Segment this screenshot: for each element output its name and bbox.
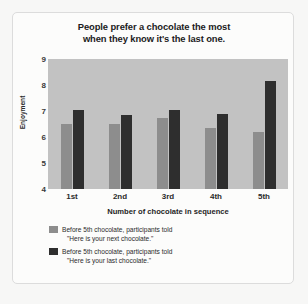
bar: [253, 132, 264, 189]
bar: [205, 128, 216, 189]
legend-label-line-1: Before 5th chocolate, participants told: [62, 247, 172, 256]
legend-swatch: [49, 248, 58, 255]
y-axis-ticks: 456789: [27, 59, 46, 189]
legend-label-line-2: "Here is your last chocolate.": [62, 256, 172, 265]
plot-area: [48, 59, 288, 189]
x-axis-tick: 2nd: [98, 192, 141, 201]
y-axis-tick: 9: [27, 55, 46, 64]
y-axis-tick: 4: [27, 185, 46, 194]
bar: [61, 124, 72, 189]
bar-groups: [48, 59, 288, 189]
bar: [109, 124, 120, 189]
chart-title-line-1: People prefer a chocolate the most: [13, 21, 295, 33]
legend-label-line-2: "Here is your next chocolate.": [62, 234, 172, 243]
legend-label-line-1: Before 5th chocolate, participants told: [62, 225, 172, 234]
legend-label: Before 5th chocolate, participants told"…: [62, 225, 172, 243]
x-axis-tick: 5th: [242, 192, 285, 201]
chart-legend: Before 5th chocolate, participants told"…: [49, 225, 279, 269]
chart-title: People prefer a chocolate the most when …: [13, 21, 295, 45]
bar: [217, 114, 228, 189]
legend-item: Before 5th chocolate, participants told"…: [49, 225, 279, 243]
chart-card: People prefer a chocolate the most when …: [12, 12, 294, 284]
x-axis-tick: 1st: [50, 192, 93, 201]
bar-group: [98, 59, 141, 189]
x-axis-tick: 3rd: [146, 192, 189, 201]
chart-title-line-2: when they know it's the last one.: [13, 33, 295, 45]
bar: [265, 81, 276, 189]
bar-group: [194, 59, 237, 189]
y-axis-tick: 8: [27, 81, 46, 90]
legend-label: Before 5th chocolate, participants told"…: [62, 247, 172, 265]
bar: [73, 110, 84, 189]
x-axis-tick: 4th: [194, 192, 237, 201]
bar-group: [50, 59, 93, 189]
bar-group: [146, 59, 189, 189]
legend-swatch: [49, 226, 58, 233]
bar: [121, 115, 132, 189]
y-axis-tick: 5: [27, 159, 46, 168]
y-axis-tick: 7: [27, 107, 46, 116]
legend-item: Before 5th chocolate, participants told"…: [49, 247, 279, 265]
bar: [157, 118, 168, 190]
y-axis-label: Enjoyment: [19, 85, 26, 141]
x-axis-label: Number of chocolate in sequence: [48, 207, 288, 216]
x-axis-ticks: 1st2nd3rd4th5th: [48, 192, 288, 201]
bar-group: [242, 59, 285, 189]
y-axis-tick: 6: [27, 133, 46, 142]
bar: [169, 110, 180, 189]
